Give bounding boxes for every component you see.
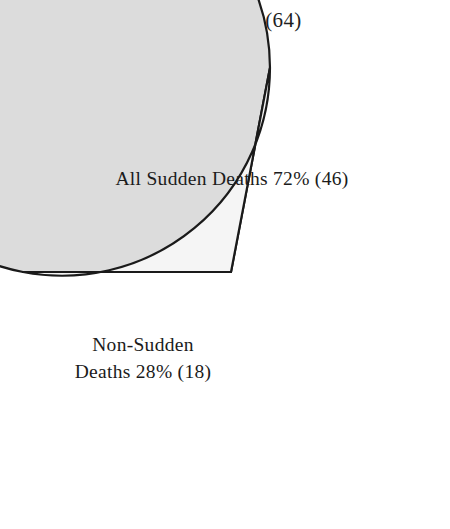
pie-chart-graphic — [0, 0, 450, 529]
pie-chart-figure: Total Deaths (64) All Sudden Deaths 72% … — [0, 0, 450, 529]
